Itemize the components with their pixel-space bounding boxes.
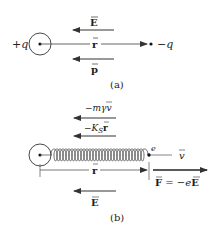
- applied-force-label: F = −eE: [155, 177, 199, 188]
- displacement-label: r: [92, 165, 98, 176]
- panel-a: E +q r −q p (a): [12, 17, 173, 90]
- field-label-b: E: [91, 197, 99, 208]
- diagram-canvas: E +q r −q p (a) −mγv −KSr: [0, 0, 217, 232]
- caption-a: (a): [110, 79, 124, 90]
- separation-label-a: r: [92, 39, 98, 50]
- caption-b: (b): [110, 212, 124, 223]
- velocity-label: v: [179, 150, 185, 161]
- spring-force-label: −KSr: [84, 123, 108, 135]
- spring-coil: [51, 149, 148, 161]
- damping-force-label: −mγv: [85, 103, 112, 113]
- electron-label: e: [151, 144, 156, 153]
- negative-charge-label: −q: [157, 38, 173, 51]
- dipole-moment-label: p: [91, 64, 98, 75]
- panel-b: −mγv −KSr e v r F = −eE E: [29, 102, 207, 223]
- field-label-a: E: [90, 17, 98, 28]
- negative-charge-dot: [149, 42, 152, 45]
- positive-charge-label: +q: [12, 38, 28, 51]
